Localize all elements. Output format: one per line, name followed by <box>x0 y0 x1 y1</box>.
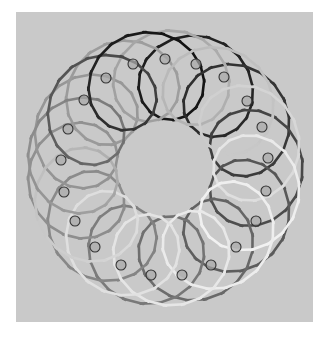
node-circle-icon <box>56 155 66 165</box>
node-circle-icon <box>90 242 100 252</box>
spirograph-figure <box>0 0 330 341</box>
node-circle-icon <box>191 59 201 69</box>
node-circle-icon <box>101 73 111 83</box>
node-circle-icon <box>231 242 241 252</box>
node-circle-icon <box>261 186 271 196</box>
node-circle-icon <box>257 122 267 132</box>
node-circle-icon <box>242 96 252 106</box>
node-circle-icon <box>177 270 187 280</box>
node-circle-icon <box>146 270 156 280</box>
node-circle-icon <box>63 124 73 134</box>
node-circle-icon <box>79 95 89 105</box>
looping-curve <box>28 30 303 305</box>
node-circle-icon <box>59 187 69 197</box>
node-circle-icon <box>251 216 261 226</box>
node-circle-icon <box>160 54 170 64</box>
node-circle-icon <box>70 216 80 226</box>
node-circle-icon <box>206 260 216 270</box>
node-circle-icon <box>128 59 138 69</box>
node-circle-icon <box>263 153 273 163</box>
node-circle-icon <box>116 260 126 270</box>
node-circle-icon <box>219 72 229 82</box>
